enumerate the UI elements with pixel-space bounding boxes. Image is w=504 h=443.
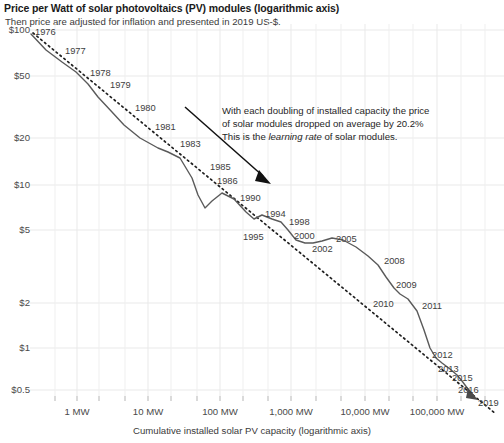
point-label: 2002 xyxy=(312,244,333,254)
point-label: 1994 xyxy=(265,209,286,219)
point-label: 1985 xyxy=(210,162,231,172)
chart-root: Price per Watt of solar photovoltaics (P… xyxy=(0,0,504,443)
y-tick-label: $0.5 xyxy=(0,384,30,395)
point-label: 2016 xyxy=(458,385,479,395)
annotation-line-3: This is the learning rate of solar modul… xyxy=(222,130,429,143)
y-tick-label: $5 xyxy=(0,224,30,235)
y-tick-label: $50 xyxy=(0,70,30,81)
point-label: 1986 xyxy=(217,176,238,186)
y-tick-label: $10 xyxy=(0,179,30,190)
x-tick-label: 1 MW xyxy=(37,406,117,417)
point-label: 2010 xyxy=(373,299,394,309)
x-axis-title: Cumulative installed solar PV capacity (… xyxy=(102,425,402,436)
point-label: 1976 xyxy=(35,27,56,37)
point-label: 2009 xyxy=(396,280,417,290)
point-label: 1983 xyxy=(180,139,201,149)
x-tick-label: 100,000 MW xyxy=(397,406,477,417)
point-label: 1980 xyxy=(135,103,156,113)
point-label: 1990 xyxy=(240,193,261,203)
x-axis-ticks xyxy=(55,396,485,401)
y-tick-label: $2 xyxy=(0,297,30,308)
y-tick-label: $100 xyxy=(0,24,30,35)
annotation-line-3-emphasis: learning rate xyxy=(268,131,321,142)
annotation-line-3-post: of solar modules. xyxy=(322,131,398,142)
annotation-line-3-pre: This is the xyxy=(222,131,268,142)
x-tick-label: 1,000 MW xyxy=(251,406,331,417)
point-label: 2011 xyxy=(422,301,442,311)
point-label: 1995 xyxy=(243,232,264,242)
point-label: 1977 xyxy=(65,46,86,56)
trend-line-series xyxy=(33,33,496,414)
x-tick-label: 10,000 MW xyxy=(325,406,405,417)
annotation-line-2: of solar modules dropped on average by 2… xyxy=(222,117,429,130)
x-tick-label: 100 MW xyxy=(180,406,260,417)
point-label: 1978 xyxy=(90,68,111,78)
point-label: 2012 xyxy=(432,350,453,360)
point-label: 1981 xyxy=(155,122,176,132)
point-label: 2019 xyxy=(478,398,499,408)
point-label: 1998 xyxy=(289,217,310,227)
point-label: 1979 xyxy=(110,80,131,90)
point-label: 2015 xyxy=(452,373,473,383)
y-tick-label: $20 xyxy=(0,132,30,143)
x-tick-label: 10 MW xyxy=(108,406,188,417)
chart-canvas xyxy=(0,0,504,443)
point-label: 2008 xyxy=(384,256,405,266)
learning-rate-annotation: With each doubling of installed capacity… xyxy=(222,104,429,144)
point-label: 2000 xyxy=(294,231,315,241)
y-tick-label: $1 xyxy=(0,342,30,353)
annotation-line-1: With each doubling of installed capacity… xyxy=(222,104,429,117)
point-label: 2005 xyxy=(336,234,357,244)
